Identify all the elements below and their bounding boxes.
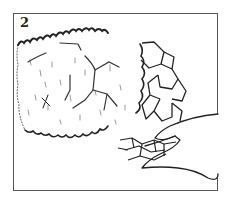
moss-mat [17, 28, 145, 137]
cell-network-right [141, 42, 186, 121]
hand [142, 114, 218, 179]
moss-illustration [0, 0, 231, 207]
